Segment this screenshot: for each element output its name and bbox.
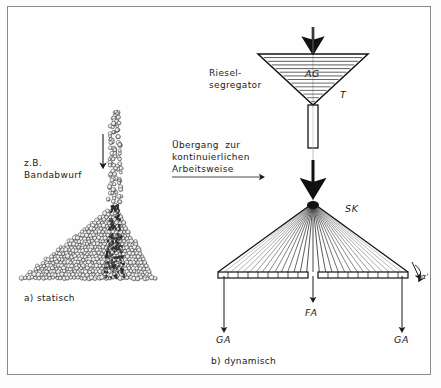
label-force-fa-center: FA — [305, 307, 318, 319]
label-funnel-name-line2: segregator — [209, 80, 261, 92]
label-left-source-line2: Bandabwurf — [24, 170, 82, 182]
label-funnel-edge-t: T — [340, 89, 346, 101]
label-caption-a: a) statisch — [24, 293, 75, 305]
label-transition-line3: Arbeitsweise — [172, 164, 234, 176]
figure-frame — [7, 6, 431, 375]
label-transition-line1: Übergang zur — [172, 140, 240, 152]
label-funnel-inner-ag: AG — [305, 68, 320, 80]
figure-root: z.B. Bandabwurf a) statisch Übergang zur… — [0, 0, 441, 388]
label-force-ga-right: GA — [394, 334, 409, 346]
label-angle-alpha-prime: α' — [421, 271, 429, 283]
label-force-ga-left: GA — [216, 334, 231, 346]
label-funnel-name-line1: Riesel- — [209, 68, 242, 80]
label-transition-line2: kontinuierlichen — [172, 152, 250, 164]
label-fan-sk: SK — [345, 203, 358, 215]
label-caption-b: b) dynamisch — [211, 356, 276, 368]
label-left-source-line1: z.B. — [24, 158, 42, 170]
